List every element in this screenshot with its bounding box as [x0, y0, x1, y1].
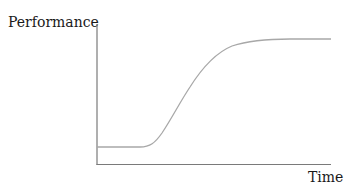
performance-curve-diagram [0, 0, 345, 194]
s-curve [97, 39, 331, 147]
